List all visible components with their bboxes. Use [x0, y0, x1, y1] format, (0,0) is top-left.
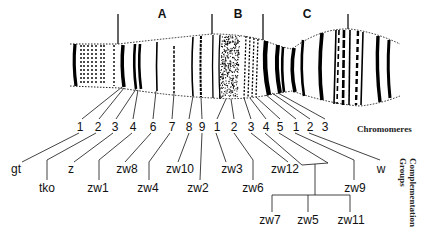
- gene-gt: gt: [11, 163, 21, 175]
- chromomere-a1: 1: [77, 121, 84, 133]
- gene-zw1: zw1: [87, 182, 108, 194]
- complementation-legend-line1: Complementation: [408, 158, 418, 227]
- chromomeres-legend: Chromomeres: [357, 124, 412, 134]
- gene-zw11: zw11: [337, 214, 364, 226]
- chromomere-c2: 2: [307, 121, 314, 133]
- chromosome-bands: [74, 35, 220, 99]
- gene-zw8: zw8: [116, 163, 137, 175]
- region-label-b: B: [234, 8, 243, 20]
- gene-zw12: zw12: [271, 163, 299, 175]
- gene-zw10: zw10: [166, 163, 194, 175]
- chromomere-b5: 5: [277, 121, 284, 133]
- chromomere-b2: 2: [231, 121, 238, 133]
- gene-leader-lines: [22, 133, 380, 212]
- gene-zw7: zw7: [259, 214, 280, 226]
- gene-tko: tko: [39, 182, 55, 194]
- chromomere-a4: 4: [130, 121, 137, 133]
- polytene-chromosome-map: [0, 0, 425, 240]
- gene-z: z: [68, 163, 74, 175]
- gene-zw4: zw4: [137, 182, 158, 194]
- chromomere-c3: 3: [322, 121, 329, 133]
- chromosome-bands-right: [244, 30, 390, 105]
- complementation-legend-line2: Groups: [398, 158, 408, 187]
- gene-zw5: zw5: [297, 214, 318, 226]
- stipple-dots: [219, 35, 240, 98]
- gene-zw9: zw9: [344, 182, 365, 194]
- chromomere-a9: 9: [199, 121, 206, 133]
- gene-zw2: zw2: [187, 182, 208, 194]
- gene-zw3: zw3: [221, 163, 242, 175]
- region-label-c: C: [303, 8, 312, 20]
- chromomere-a7: 7: [169, 121, 176, 133]
- gene-w: w: [377, 163, 386, 175]
- chromomere-b4: 4: [263, 121, 270, 133]
- gene-zw6: zw6: [242, 182, 263, 194]
- chromomere-a3: 3: [112, 121, 119, 133]
- chromomere-b1: 1: [214, 121, 221, 133]
- chromomere-a8: 8: [186, 121, 193, 133]
- chromomere-b3: 3: [248, 121, 255, 133]
- region-label-a: A: [158, 8, 167, 20]
- chromomere-c1: 1: [293, 121, 300, 133]
- chromomere-a6: 6: [150, 121, 157, 133]
- chromomere-a2: 2: [95, 121, 102, 133]
